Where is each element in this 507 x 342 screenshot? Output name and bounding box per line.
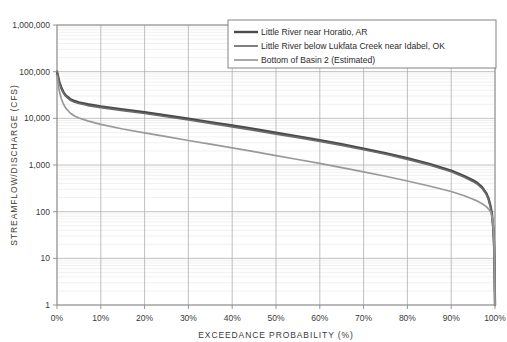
x-tick-label: 90% [443,313,460,323]
legend: Little River near Horatio, ARLittle Rive… [228,20,496,68]
y-tick-label: 10 [41,253,51,263]
flow-duration-curve-chart: 1101001,00010,000100,0001,000,0000%10%20… [0,0,507,342]
legend-label-3: Bottom of Basin 2 (Estimated) [261,55,375,65]
y-tick-label: 1 [45,300,50,310]
y-tick-label: 1,000,000 [12,20,50,30]
x-tick-label: 0% [51,313,64,323]
y-axis-title: STREAMFLOW/DISCHARGE (CFS) [9,84,19,245]
x-tick-label: 10% [92,313,109,323]
x-axis-title: EXCEEDANCE PROBABILITY (%) [198,330,354,340]
y-tick-label: 10,000 [24,113,50,123]
y-tick-label: 1,000 [29,160,51,170]
x-tick-label: 30% [180,313,197,323]
x-tick-label: 70% [355,313,372,323]
legend-label-1: Little River near Horatio, AR [261,27,368,37]
x-tick-label: 80% [399,313,416,323]
legend-label-2: Little River below Lukfata Creek near Id… [261,41,445,51]
x-tick-label: 60% [311,313,328,323]
y-tick-label: 100,000 [19,67,50,77]
x-tick-label: 50% [267,313,284,323]
x-axis-ticks: 0%10%20%30%40%50%60%70%80%90%100% [51,305,506,323]
x-tick-label: 20% [136,313,153,323]
chart-container: 1101001,00010,000100,0001,000,0000%10%20… [0,0,507,342]
x-tick-label: 100% [484,313,506,323]
y-tick-label: 100 [36,207,50,217]
x-tick-label: 40% [224,313,241,323]
